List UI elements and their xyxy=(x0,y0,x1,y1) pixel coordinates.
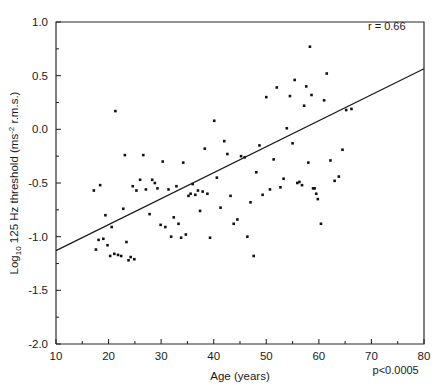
data-point xyxy=(317,198,320,201)
data-point xyxy=(156,187,159,190)
data-point xyxy=(345,109,348,112)
regression-line xyxy=(56,69,424,251)
data-point xyxy=(106,244,109,247)
data-point xyxy=(102,238,105,241)
data-point xyxy=(261,194,264,197)
data-point xyxy=(315,192,318,195)
data-point xyxy=(164,226,167,229)
data-point xyxy=(309,45,312,48)
figure-container: 1020304050607080 -2.0-1.5-1.0-0.50.00.51… xyxy=(0,0,435,391)
data-point xyxy=(320,222,323,225)
data-point xyxy=(325,72,328,75)
data-point xyxy=(175,185,178,188)
regression-line-segment xyxy=(56,69,424,251)
data-point xyxy=(135,189,138,192)
data-point xyxy=(252,255,255,258)
data-point xyxy=(209,236,212,239)
y-tick-label: -1.5 xyxy=(28,284,48,296)
data-point xyxy=(93,189,96,192)
data-point xyxy=(145,188,148,191)
data-point xyxy=(298,181,301,184)
data-point xyxy=(113,253,116,256)
data-point xyxy=(333,180,336,183)
data-point xyxy=(289,95,292,98)
data-point xyxy=(249,201,252,204)
data-point xyxy=(124,154,127,157)
x-tick-label: 60 xyxy=(312,350,325,362)
data-point xyxy=(279,186,282,189)
y-axis-tick-labels: -2.0-1.5-1.0-0.50.00.51.0 xyxy=(28,16,48,350)
data-point xyxy=(329,159,332,162)
data-point xyxy=(301,184,304,187)
data-point xyxy=(203,147,206,150)
data-point xyxy=(110,226,113,229)
y-tick-label: -1.0 xyxy=(28,231,48,243)
data-point xyxy=(236,218,239,221)
x-axis-tick-labels: 1020304050607080 xyxy=(50,350,431,362)
data-point xyxy=(127,259,130,262)
y-tick-label: -0.5 xyxy=(28,177,48,189)
data-point xyxy=(213,119,216,122)
data-point xyxy=(177,222,180,225)
data-point xyxy=(323,99,326,102)
data-point xyxy=(313,187,316,190)
data-point xyxy=(285,127,288,130)
y-axis-title: Log10 125 Hz threshold (ms-2 r.m.s.) xyxy=(7,91,23,274)
annotation-significance: p<0.0005 xyxy=(373,364,419,376)
data-point xyxy=(258,144,261,147)
data-point xyxy=(194,194,197,197)
data-point xyxy=(185,233,188,236)
data-point xyxy=(125,241,128,244)
data-point xyxy=(255,171,258,174)
data-point xyxy=(305,85,308,88)
data-point xyxy=(148,213,151,216)
annotation-correlation: r = 0.66 xyxy=(368,20,406,32)
scatter-plot: 1020304050607080 -2.0-1.5-1.0-0.50.00.51… xyxy=(0,0,435,391)
data-point xyxy=(226,153,229,156)
x-tick-label: 20 xyxy=(102,350,115,362)
y-axis-ticks xyxy=(56,22,61,344)
data-point xyxy=(97,239,100,242)
data-point xyxy=(120,255,123,258)
data-point xyxy=(172,216,175,219)
data-point xyxy=(122,207,125,210)
data-point xyxy=(232,222,235,225)
data-point xyxy=(167,188,170,191)
data-point xyxy=(276,86,279,89)
data-point xyxy=(117,254,120,257)
data-point xyxy=(199,210,202,213)
data-point xyxy=(139,178,142,181)
y-tick-label: 1.0 xyxy=(32,16,48,28)
data-point xyxy=(206,192,209,195)
data-point xyxy=(269,188,272,191)
data-point xyxy=(282,177,285,180)
data-point xyxy=(114,110,117,113)
data-point xyxy=(246,235,249,238)
data-points xyxy=(93,45,353,261)
data-point xyxy=(307,161,310,164)
data-point xyxy=(104,214,107,217)
data-point xyxy=(180,236,183,239)
data-point xyxy=(170,235,173,238)
y-tick-label: 0.0 xyxy=(32,123,48,135)
data-point xyxy=(265,96,268,99)
data-point xyxy=(201,190,204,193)
x-tick-label: 40 xyxy=(207,350,220,362)
data-point xyxy=(151,178,154,181)
plot-frame xyxy=(56,22,424,344)
x-tick-label: 80 xyxy=(418,350,431,362)
axes-frame xyxy=(56,22,424,344)
data-point xyxy=(350,108,353,111)
data-point xyxy=(338,175,341,178)
data-point xyxy=(291,142,294,145)
x-tick-label: 50 xyxy=(260,350,273,362)
data-point xyxy=(197,189,200,192)
data-point xyxy=(272,158,275,161)
x-tick-label: 30 xyxy=(155,350,168,362)
data-point xyxy=(129,256,132,259)
y-tick-label: -2.0 xyxy=(28,338,48,350)
data-point xyxy=(293,79,296,82)
data-point xyxy=(159,224,162,227)
data-point xyxy=(310,94,313,97)
data-point xyxy=(131,185,134,188)
